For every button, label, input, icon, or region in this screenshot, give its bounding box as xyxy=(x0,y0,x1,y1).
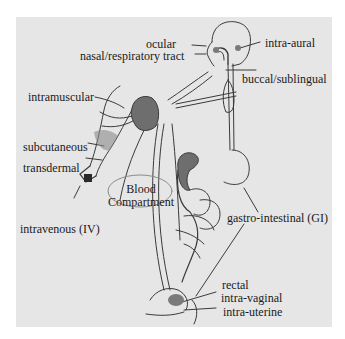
label-gi: gastro-intestinal (GI) xyxy=(227,212,328,225)
label-intra-aural: intra-aural xyxy=(265,37,315,50)
label-buccal: buccal/sublingual xyxy=(242,73,327,86)
blood-line-2: Compartment xyxy=(106,196,176,209)
label-subcutaneous: subcutaneous xyxy=(23,141,88,154)
label-intra-uterine: intra-uterine xyxy=(223,306,282,319)
label-intravenous: intravenous (IV) xyxy=(20,223,100,236)
label-intra-vaginal: intra-vaginal xyxy=(221,292,282,305)
label-intramuscular: intramuscular xyxy=(28,91,94,104)
label-transdermal: transdermal xyxy=(23,162,80,175)
label-nasal: nasal/respiratory tract xyxy=(80,50,184,63)
blood-compartment-label: Blood Compartment xyxy=(106,183,176,209)
